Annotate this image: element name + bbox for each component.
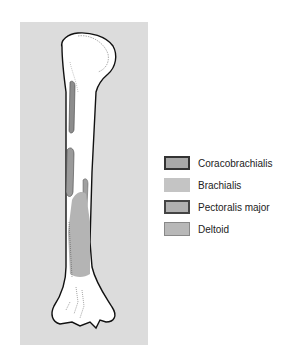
pectoralis-major-region (66, 148, 74, 197)
legend-swatch (164, 200, 190, 214)
legend-label: Deltoid (198, 224, 229, 235)
coracobrachialis-region (69, 81, 75, 133)
legend-label: Coracobrachialis (198, 158, 272, 169)
legend-item-coracobrachialis: Coracobrachialis (164, 152, 272, 174)
legend-label: Brachialis (198, 180, 241, 191)
humerus-illustration (20, 22, 148, 345)
legend-item-brachialis: Brachialis (164, 174, 272, 196)
legend-label: Pectoralis major (198, 202, 270, 213)
legend-item-pectoralis-major: Pectoralis major (164, 196, 272, 218)
legend-swatch (164, 156, 190, 170)
legend-swatch (164, 222, 190, 236)
legend: Coracobrachialis Brachialis Pectoralis m… (164, 152, 272, 240)
legend-swatch (164, 178, 190, 192)
legend-item-deltoid: Deltoid (164, 218, 272, 240)
